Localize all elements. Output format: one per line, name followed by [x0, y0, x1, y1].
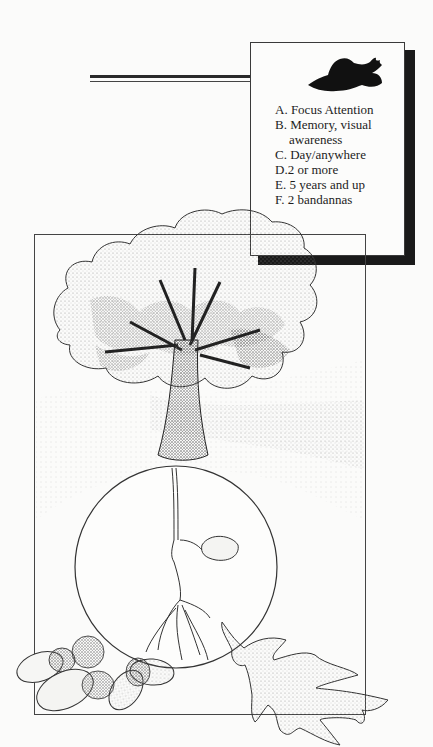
- oak-leaf: [222, 622, 388, 745]
- oak-illustration: [0, 0, 433, 747]
